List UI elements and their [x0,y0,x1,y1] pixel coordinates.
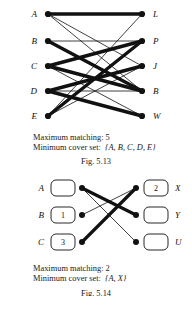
label-L: L [152,9,158,19]
vertex-C2[interactable] [79,239,85,245]
label-P: P [152,36,159,46]
right-vertices-top [139,11,145,119]
right-labels-bottom: X Y U [174,183,182,247]
left-labels-bottom: A B C [38,183,45,247]
figure-5-13: A B C D E L P J B W Maximum matching: 5 … [0,0,192,166]
label-D: D [30,86,38,96]
vertex-A2[interactable] [79,185,85,191]
vertex-X[interactable] [133,185,139,191]
label-X: X [174,183,181,193]
label-W: W [153,111,162,121]
label-E: E [31,111,38,121]
caption-cover-bottom: Minimum cover set: {A, X} [33,274,192,284]
vertex-U[interactable] [133,239,139,245]
vertex-J[interactable] [139,63,145,69]
vertex-A[interactable] [45,11,51,17]
label-B2: B [39,210,45,220]
caption-cover-top: Minimum cover set: {A, B, C, D, E} [33,143,192,153]
vertex-P[interactable] [139,38,145,44]
caption-cover-value-bottom: {A, X} [105,274,126,283]
bipartite-graph-bottom: 1 3 2 A B C X Y U [0,172,192,264]
vertex-L[interactable] [139,11,145,17]
vertex-B2[interactable] [79,212,85,218]
figure-5-14: 1 3 2 A B C X Y U Maximum matching: 2 Mi… [0,172,192,296]
box-value-B: 1 [61,211,65,220]
label-A2: A [38,183,45,193]
fig-label-5-14: Fig. 5.14 [0,289,192,296]
caption-top: Maximum matching: 5 Minimum cover set: {… [0,133,192,153]
label-C2: C [38,237,45,247]
graph-canvas-top: A B C D E L P J B W [0,0,192,133]
box-value-C: 3 [61,238,65,247]
vertex-B[interactable] [45,38,51,44]
vertex-D[interactable] [45,88,51,94]
right-labels-top: L P J B W [152,9,162,121]
caption-matching-bottom: Maximum matching: 2 [33,264,192,274]
box-U[interactable] [144,234,168,250]
vertex-Bv[interactable] [139,88,145,94]
caption-bottom: Maximum matching: 2 Minimum cover set: {… [0,264,192,284]
box-Y[interactable] [144,207,168,223]
fig-label-5-13: Fig. 5.13 [0,157,192,166]
edge-B-Bv [48,41,142,91]
label-Bv: B [153,86,159,96]
vertex-W[interactable] [139,113,145,119]
bipartite-graph-top: A B C D E L P J B W [0,0,192,133]
caption-matching-top: Maximum matching: 5 [33,133,192,143]
caption-cover-value-top: {A, B, C, D, E} [105,143,155,152]
label-J: J [153,61,158,71]
caption-cover-label-bottom: Minimum cover set: [33,274,101,283]
vertex-E[interactable] [45,113,51,119]
label-U: U [175,237,182,247]
caption-cover-label-top: Minimum cover set: [33,143,101,152]
left-labels-top: A B C D E [30,9,38,121]
label-Y: Y [175,210,181,220]
label-C: C [31,61,38,71]
left-vertices-top [45,11,51,119]
label-A: A [31,9,38,19]
box-A[interactable] [51,180,75,196]
box-value-X: 2 [154,184,158,193]
vertex-Y[interactable] [133,212,139,218]
label-B: B [32,36,38,46]
vertex-C[interactable] [45,63,51,69]
graph-canvas-bottom: 1 3 2 A B C X Y U [0,172,192,264]
edge-A-J [48,14,142,66]
